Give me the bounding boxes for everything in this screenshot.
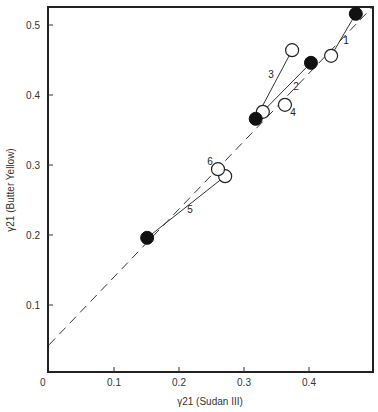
filled-point — [141, 231, 154, 244]
origin-tick-label: 0 — [40, 377, 46, 388]
y-tick-label: 0.1 — [26, 300, 40, 311]
y-axis-label: γ21 (Butter Yellow) — [5, 148, 16, 231]
x-tick-label: 0.4 — [302, 377, 316, 388]
connector-line-5 — [147, 176, 225, 238]
filled-point — [249, 112, 262, 125]
plot-area: 0.10.20.30.40.10.20.30.40.5γ21 (Sudan II… — [5, 6, 373, 407]
x-axis-label: γ21 (Sudan III) — [177, 396, 243, 407]
open-point-3 — [286, 44, 299, 57]
y-tick-label: 0.3 — [26, 160, 40, 171]
series-label-1: 1 — [343, 35, 349, 46]
scatter-chart: 0.10.20.30.40.10.20.30.40.5γ21 (Sudan II… — [0, 0, 378, 412]
y-tick-label: 0.2 — [26, 230, 40, 241]
x-tick-label: 0.2 — [172, 377, 186, 388]
series-label-3: 3 — [268, 69, 274, 80]
y-tick-label: 0.5 — [26, 20, 40, 31]
series-label-4: 4 — [290, 107, 296, 118]
filled-point — [349, 7, 362, 20]
x-tick-label: 0.1 — [107, 377, 121, 388]
series-label-2: 2 — [293, 81, 299, 92]
x-tick-label: 0.3 — [237, 377, 251, 388]
plot-frame — [48, 7, 373, 372]
open-point-6 — [212, 163, 225, 176]
open-point-1 — [325, 49, 338, 62]
series-label-6: 6 — [207, 156, 213, 167]
filled-point — [304, 56, 317, 69]
y-tick-label: 0.4 — [26, 90, 40, 101]
series-label-5: 5 — [187, 204, 193, 215]
